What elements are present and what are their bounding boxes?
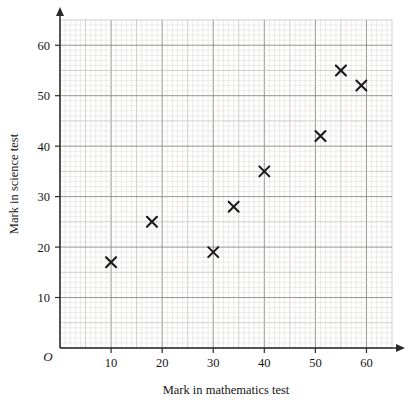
x-axis-arrowhead bbox=[396, 344, 405, 352]
y-tick-label: 60 bbox=[38, 39, 51, 53]
x-tick-label: 10 bbox=[105, 356, 118, 370]
x-axis-title: Mark in mathematics test bbox=[163, 383, 290, 397]
x-tick-label: 60 bbox=[360, 356, 373, 370]
y-tick-label: 50 bbox=[38, 89, 51, 103]
y-axis-arrowhead bbox=[56, 7, 64, 16]
x-tick-label: 50 bbox=[309, 356, 322, 370]
x-tick-label: 20 bbox=[156, 356, 169, 370]
y-tick-label: 10 bbox=[38, 291, 51, 305]
y-tick-label: 20 bbox=[38, 241, 51, 255]
origin-label: O bbox=[43, 349, 53, 364]
y-tick-label: 40 bbox=[38, 140, 51, 154]
x-tick-label: 30 bbox=[207, 356, 220, 370]
y-axis-title: Mark in science test bbox=[7, 133, 21, 234]
scatter-chart: 102030405060102030405060OMark in mathema… bbox=[0, 0, 414, 405]
x-tick-label: 40 bbox=[258, 356, 271, 370]
scatter-plot-figure: 102030405060102030405060OMark in mathema… bbox=[0, 0, 414, 405]
axis-ticks: 102030405060102030405060 bbox=[38, 39, 373, 370]
y-tick-label: 30 bbox=[38, 190, 51, 204]
axes bbox=[56, 7, 405, 352]
